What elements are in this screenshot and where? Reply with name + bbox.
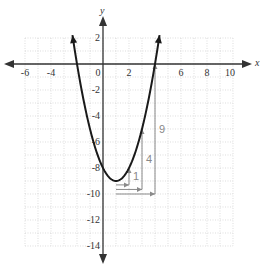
x-axis-right-arrow-icon xyxy=(242,60,252,68)
parabola-chart: x y -6 -4 0 2 6 8 10 2 -2 -4 -6 -8 -10 -… xyxy=(0,0,261,277)
x-tick: 10 xyxy=(225,67,235,78)
y-tick: -14 xyxy=(87,240,100,251)
x-axis-label: x xyxy=(254,57,260,68)
y-axis-up-arrow-icon xyxy=(99,16,107,26)
x-tick: -4 xyxy=(47,67,55,78)
step-label: 1 xyxy=(133,170,139,182)
tick-labels: -6 -4 0 2 6 8 10 2 -2 -4 -6 -8 -10 -12 -… xyxy=(21,32,235,251)
y-axis-label: y xyxy=(99,5,105,16)
curve-arrowheads xyxy=(70,35,162,43)
y-tick: -12 xyxy=(87,214,100,225)
step-label: 4 xyxy=(146,153,152,165)
x-tick: -6 xyxy=(21,67,29,78)
y-tick: 2 xyxy=(95,32,100,43)
y-tick: -8 xyxy=(92,162,100,173)
step-label: 9 xyxy=(159,123,165,135)
y-axis-down-arrow-icon xyxy=(99,254,107,264)
x-tick: 2 xyxy=(127,67,132,78)
x-axis-left-arrow-icon xyxy=(4,60,14,68)
axes: x y xyxy=(4,5,260,264)
y-tick: -4 xyxy=(92,110,100,121)
y-tick: -10 xyxy=(87,188,100,199)
y-tick: -2 xyxy=(92,84,100,95)
x-tick: 8 xyxy=(205,67,210,78)
x-tick: 0 xyxy=(96,67,101,78)
x-tick: 6 xyxy=(179,67,184,78)
